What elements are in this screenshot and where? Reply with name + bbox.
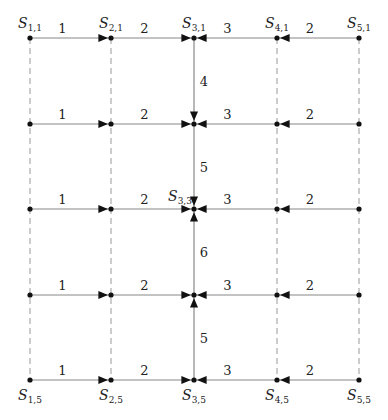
arrowhead-icon [197, 120, 207, 128]
edge-weight-label: 2 [140, 21, 148, 36]
graph-node [27, 292, 32, 297]
arrowhead-icon [197, 376, 207, 384]
node-label: S5,5 [347, 387, 371, 406]
edge-weight-label: 1 [58, 278, 66, 293]
graph-node [274, 35, 279, 40]
arrowhead-icon [98, 376, 108, 384]
edge-weight-label: 2 [306, 107, 314, 122]
vertical-edge-weight-label: 5 [200, 159, 208, 174]
graph-node [191, 377, 196, 382]
graph-node [108, 35, 113, 40]
arrowhead-icon [98, 291, 108, 299]
edge-weight-label: 2 [140, 192, 148, 207]
graph-node [191, 206, 196, 211]
arrowhead-icon [280, 291, 290, 299]
arrowhead-icon [280, 205, 290, 213]
node-label: S4,5 [265, 387, 289, 406]
arrowhead-icon [190, 298, 198, 308]
vertical-edge-weight-label: 5 [200, 330, 208, 345]
node-label: S2,5 [99, 387, 123, 406]
node-label: S2,1 [99, 15, 123, 34]
grid-graph-diagram [0, 0, 388, 420]
arrowhead-icon [197, 205, 207, 213]
graph-node [356, 377, 361, 382]
node-label: S3,1 [182, 15, 206, 34]
graph-node [356, 292, 361, 297]
arrowhead-icon [280, 34, 290, 42]
edge-weight-label: 2 [140, 363, 148, 378]
arrowhead-icon [181, 120, 191, 128]
graph-node [356, 206, 361, 211]
graph-node [108, 121, 113, 126]
arrowhead-icon [181, 34, 191, 42]
arrowhead-icon [197, 291, 207, 299]
edge-weight-label: 3 [223, 363, 231, 378]
arrowhead-icon [190, 212, 198, 222]
graph-node [356, 35, 361, 40]
graph-node [191, 292, 196, 297]
graph-node [274, 377, 279, 382]
edge-weight-label: 3 [223, 107, 231, 122]
edge-weight-label: 1 [58, 192, 66, 207]
arrowhead-icon [181, 291, 191, 299]
edge-weight-label: 2 [140, 107, 148, 122]
edge-weight-label: 3 [223, 278, 231, 293]
arrowhead-icon [98, 34, 108, 42]
arrowhead-icon [280, 376, 290, 384]
graph-node [274, 206, 279, 211]
graph-node [27, 377, 32, 382]
edge-weight-label: 1 [58, 21, 66, 36]
graph-node [356, 121, 361, 126]
graph-node [191, 121, 196, 126]
graph-node [191, 35, 196, 40]
graph-node [108, 292, 113, 297]
node-label: S5,1 [347, 15, 371, 34]
edge-weight-label: 1 [58, 363, 66, 378]
graph-node [27, 206, 32, 211]
edge-weight-label: 3 [223, 21, 231, 36]
graph-node [108, 206, 113, 211]
edge-weight-label: 2 [140, 278, 148, 293]
graph-node [108, 377, 113, 382]
arrowhead-icon [190, 111, 198, 121]
edge-weight-label: 2 [306, 363, 314, 378]
arrowhead-icon [98, 120, 108, 128]
arrowhead-icon [181, 376, 191, 384]
node-label: S1,1 [18, 15, 42, 34]
edge-weight-label: 3 [223, 192, 231, 207]
node-label: S1,5 [18, 387, 42, 406]
graph-node [274, 292, 279, 297]
edge-weight-label: 1 [58, 107, 66, 122]
arrowhead-icon [280, 120, 290, 128]
edge-weight-label: 2 [306, 278, 314, 293]
arrowhead-icon [197, 34, 207, 42]
edge-weight-label: 2 [306, 192, 314, 207]
node-label: S4,1 [265, 15, 289, 34]
arrowhead-icon [98, 205, 108, 213]
vertical-edge-weight-label: 4 [200, 74, 208, 89]
graph-node [27, 35, 32, 40]
graph-node [27, 121, 32, 126]
vertical-edge-weight-label: 6 [200, 245, 208, 260]
edge-weight-label: 2 [306, 21, 314, 36]
graph-node [274, 121, 279, 126]
node-label: S3,3 [168, 188, 192, 207]
node-label: S3,5 [182, 387, 206, 406]
